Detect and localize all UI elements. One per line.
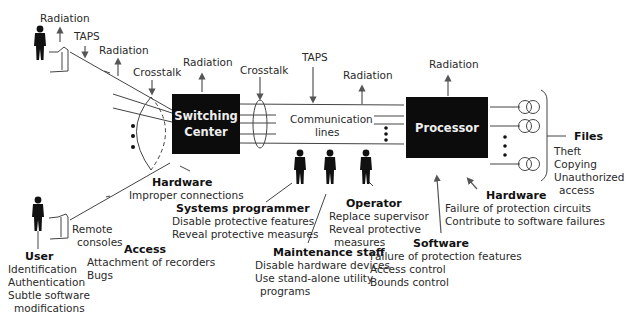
files-threat-unauthorized: Unauthorized (554, 171, 625, 184)
software-title: Software (413, 237, 469, 250)
hardware-switch-item: Improper connections (129, 189, 244, 202)
remote-consoles-label-2: consoles (77, 236, 123, 249)
taps-label-2: TAPS (302, 51, 328, 64)
files-threat-access: access (559, 184, 594, 197)
software-item: Bounds control (370, 276, 449, 289)
top-terminal (49, 47, 68, 72)
remote-consoles-label-1: Remote (72, 223, 113, 236)
files-title: Files (574, 130, 603, 143)
files-threat-copying: Copying (554, 158, 597, 171)
person-icon-systems-programmer (294, 150, 306, 184)
hardware-processor-title: Hardware (486, 189, 546, 202)
systems-programmer-title: Systems programmer (176, 202, 310, 215)
software-item: Failure of protection features (370, 250, 522, 263)
systems-programmer-item: Disable protective features (172, 215, 314, 228)
hardware-processor-item: Failure of protection circuits (445, 202, 591, 215)
person-icon-top-user (34, 26, 46, 60)
operator-item: measures (334, 236, 385, 249)
hardware-processor-item: Contribute to software failures (445, 215, 605, 228)
user-item: Subtle software (8, 289, 90, 302)
communication-lines-label-1: Communication (290, 113, 373, 126)
operator-title: Operator (346, 197, 402, 210)
operator-item: Replace supervisor (329, 210, 429, 223)
bottom-terminal (49, 214, 68, 239)
access-item: Attachment of recorders (87, 256, 215, 269)
software-item: Access control (370, 263, 446, 276)
person-icon-operator (360, 150, 372, 184)
maintenance-staff-item: Use stand-alone utility (255, 272, 373, 285)
hardware-switch-title: Hardware (152, 176, 212, 189)
access-title: Access (124, 243, 166, 256)
user-item: modifications (14, 302, 85, 315)
access-item: Bugs (87, 269, 113, 282)
switching-center-label-1: Switching (174, 108, 238, 124)
operator-item: Reveal protective (329, 223, 421, 236)
radiation-label-4: Radiation (343, 69, 393, 82)
radiation-label-1: Radiation (40, 12, 90, 25)
crosstalk-label-2: Crosstalk (240, 64, 288, 77)
radiation-label-5: Radiation (429, 58, 479, 71)
processor-box: Processor (406, 97, 488, 158)
user-title: User (25, 250, 53, 263)
systems-programmer-item: Reveal protective measures (172, 228, 318, 241)
person-icon-maintenance-staff (324, 150, 336, 184)
switching-center-label-2: Center (184, 124, 227, 140)
maintenance-staff-item: programs (260, 285, 310, 298)
switching-center-box: Switching Center (172, 94, 240, 154)
files-threat-theft: Theft (554, 145, 581, 158)
communication-lines-label-2: lines (315, 126, 339, 139)
radiation-label-3: Radiation (183, 56, 233, 69)
taps-label-1: TAPS (74, 30, 100, 43)
crosstalk-label-1: Crosstalk (133, 66, 181, 79)
user-item: Authentication (8, 276, 85, 289)
radiation-label-2: Radiation (99, 44, 149, 57)
user-item: Identification (8, 263, 77, 276)
processor-label: Processor (415, 120, 479, 136)
person-icon-bottom-user (32, 197, 44, 231)
